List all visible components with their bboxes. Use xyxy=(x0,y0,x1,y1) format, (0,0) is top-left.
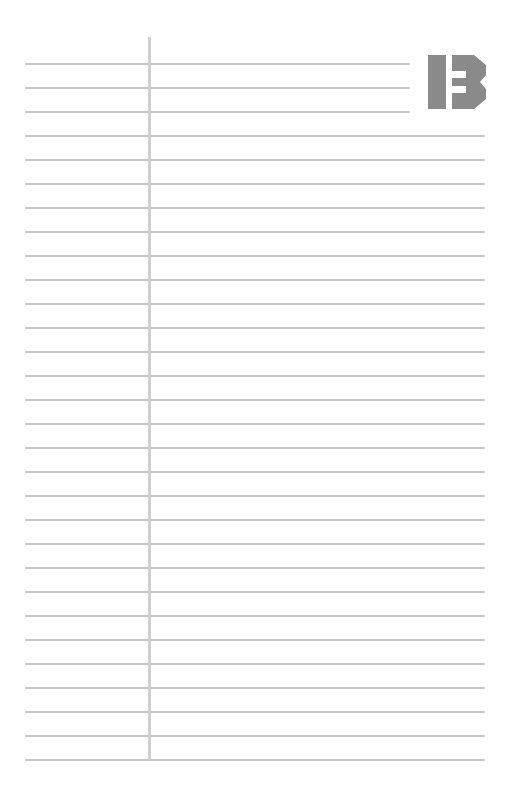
ruled-line xyxy=(25,519,485,521)
ruled-line xyxy=(25,351,485,353)
ruled-line xyxy=(25,255,485,257)
ruled-line xyxy=(25,495,485,497)
ruled-line xyxy=(25,567,485,569)
ruled-line xyxy=(25,543,485,545)
ruled-line xyxy=(25,111,410,113)
ruled-line xyxy=(25,327,485,329)
ruled-line xyxy=(25,303,485,305)
ruled-line xyxy=(25,231,485,233)
ruled-line xyxy=(25,639,485,641)
ruled-line xyxy=(25,135,485,137)
ruled-line xyxy=(25,471,485,473)
ruled-line xyxy=(25,207,485,209)
ruled-line xyxy=(25,183,485,185)
ruled-line xyxy=(25,87,410,89)
ruled-line xyxy=(25,615,485,617)
ib-logo-icon xyxy=(428,55,486,109)
notebook-page xyxy=(0,0,508,787)
ruled-line xyxy=(25,591,485,593)
logo-bar xyxy=(428,55,446,109)
ruled-line xyxy=(25,399,485,401)
ruled-line xyxy=(25,375,485,377)
ruled-line xyxy=(25,159,485,161)
ruled-line xyxy=(25,279,485,281)
ruled-line xyxy=(25,63,410,65)
ruled-line xyxy=(25,447,485,449)
ruled-line xyxy=(25,735,485,737)
ruled-line xyxy=(25,711,485,713)
ruled-line xyxy=(25,687,485,689)
ruled-line xyxy=(25,423,485,425)
logo-b-glyph xyxy=(452,55,486,109)
ruled-line xyxy=(25,759,485,761)
ruled-line xyxy=(25,663,485,665)
